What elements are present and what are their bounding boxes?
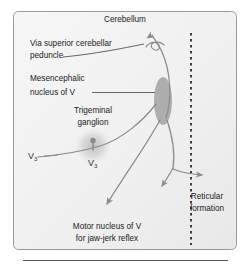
label-trigeminal-ganglion-line1: Trigeminal [74,106,112,115]
label-mesencephalic-nucleus-line1: Mesencephalic [30,74,85,83]
label-mesencephalic-nucleus-line2: nucleus of V [30,88,76,97]
label-reticular-formation-line1: Reticular [191,192,224,201]
label-motor-nucleus-line2: for jaw-jerk reflex [76,234,138,243]
label-v3-peripheral-sub: 3 [34,155,38,162]
label-cerebellum: Cerebellum [104,15,146,24]
label-trigeminal-ganglion-line2: ganglion [78,118,109,127]
ganglion-cell-body [90,138,95,143]
label-v3-ganglion-sub: 3 [94,162,98,169]
figure-root: Cerebellum Via superior cerebellar pedun… [0,0,250,267]
label-reticular-formation-line2: formation [190,204,225,213]
label-peduncle-line2: peduncle [30,51,64,60]
label-peduncle-line1: Via superior cerebellar [30,39,112,48]
label-motor-nucleus-line1: Motor nucleus of V [73,222,142,231]
neuroanatomy-diagram: Cerebellum Via superior cerebellar pedun… [0,0,250,267]
